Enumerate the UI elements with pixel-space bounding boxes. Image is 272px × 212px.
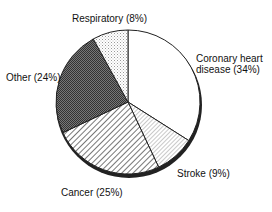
label-coronary-line2: disease (34%) xyxy=(196,64,260,75)
label-respiratory: Respiratory (8%) xyxy=(72,13,147,24)
label-stroke: Stroke (9%) xyxy=(177,168,230,179)
label-other: Other (24%) xyxy=(6,72,60,83)
label-cancer: Cancer (25%) xyxy=(61,187,123,198)
pie-chart xyxy=(0,0,272,212)
label-coronary-line1: Coronary heart xyxy=(196,53,263,64)
pie-slices xyxy=(56,30,200,174)
